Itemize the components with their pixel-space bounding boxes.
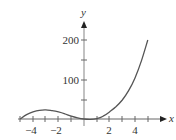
y-tick-label-100: 100 [63, 74, 80, 86]
x-tick-label-4: 4 [132, 124, 138, 136]
chart: x y 200 100 −4 −2 2 4 [0, 0, 176, 140]
y-axis-arrow-icon [81, 21, 87, 28]
x-tick-label-minus2: −2 [50, 124, 62, 136]
x-tick-label-2: 2 [106, 124, 112, 136]
y-axis-label: y [80, 6, 86, 18]
y-tick-label-200: 200 [63, 34, 80, 46]
x-axis-arrow-icon [160, 116, 167, 122]
x-tick-label-minus4: −4 [25, 124, 37, 136]
x-axis-label: x [168, 112, 174, 124]
